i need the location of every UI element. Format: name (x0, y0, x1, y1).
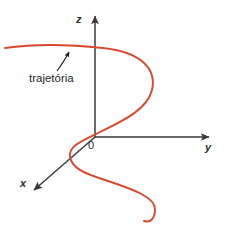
x-axis-line (34, 137, 95, 190)
figure-canvas (0, 0, 245, 230)
trajectory-curve (5, 45, 155, 222)
x-axis-label: x (20, 178, 26, 189)
y-axis-label: y (205, 142, 211, 153)
origin-label: 0 (88, 140, 94, 151)
z-axis-label: z (76, 14, 82, 25)
trajectory-annotation-label: trajetória (29, 73, 74, 85)
physics-trajectory-figure: z y x 0 trajetória Banco de imagens/Arqu… (0, 0, 245, 230)
trajectory-leader-line (57, 52, 69, 71)
